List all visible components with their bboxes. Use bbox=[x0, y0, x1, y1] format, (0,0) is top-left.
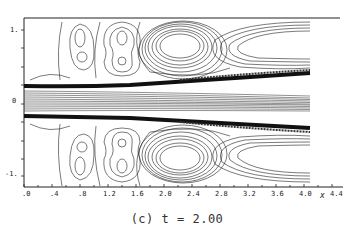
lower-small-vortices bbox=[30, 124, 140, 186]
figure-caption: (c) t = 2.00 bbox=[0, 212, 354, 226]
x-tick-label: .0 bbox=[22, 190, 30, 198]
x-tick-label: 4.0 bbox=[299, 190, 312, 198]
x-tick-label: 4.4 bbox=[330, 190, 343, 198]
upper-small-vortices bbox=[30, 22, 140, 80]
x-tick-label: 2.4 bbox=[187, 190, 200, 198]
x-tick-label: 1.2 bbox=[103, 190, 116, 198]
x-tick-label: 3.2 bbox=[243, 190, 256, 198]
x-tick-label: 2.8 bbox=[215, 190, 228, 198]
x-tick-label: .8 bbox=[78, 190, 86, 198]
upper-right-streamlines bbox=[213, 22, 310, 69]
x-tick-label: 1.6 bbox=[131, 190, 144, 198]
x-axis-label: x bbox=[320, 191, 325, 200]
lower-main-vortex bbox=[137, 125, 230, 186]
x-tick-label: 3.6 bbox=[271, 190, 284, 198]
x-tick-label: 2.0 bbox=[159, 190, 172, 198]
y-tick-label-zero: 0 bbox=[12, 97, 16, 105]
contour-figure: 1. 0 -1. .0 .4 .8 1.2 1.6 2.0 2.4 2.8 3.… bbox=[0, 0, 354, 235]
upper-main-vortex bbox=[137, 21, 230, 79]
y-tick-label-bottom: -1. bbox=[5, 170, 18, 178]
lower-right-streamlines bbox=[213, 135, 310, 182]
y-tick-label-top: 1. bbox=[10, 26, 18, 34]
central-band bbox=[24, 91, 310, 111]
x-tick-label: .4 bbox=[50, 190, 58, 198]
contour-plot bbox=[0, 0, 354, 235]
